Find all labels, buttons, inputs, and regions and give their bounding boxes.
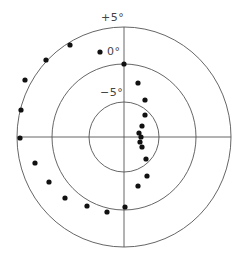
data-point	[138, 134, 143, 139]
data-point	[43, 57, 48, 62]
data-point	[143, 156, 148, 161]
data-point	[137, 139, 142, 144]
data-point	[142, 97, 147, 102]
data-point	[104, 209, 109, 214]
data-point	[122, 204, 127, 209]
data-point	[142, 112, 147, 117]
data-point	[62, 195, 67, 200]
data-point	[144, 173, 149, 178]
polar-diagram	[0, 0, 241, 260]
data-point	[121, 61, 126, 66]
data-point	[46, 179, 51, 184]
data-point	[135, 80, 140, 85]
data-point	[97, 49, 102, 54]
data-point	[32, 160, 37, 165]
axes	[17, 27, 231, 247]
data-points	[17, 42, 149, 214]
data-point	[135, 183, 140, 188]
data-point	[67, 42, 72, 47]
data-point	[18, 107, 23, 112]
data-point	[84, 203, 89, 208]
data-point	[139, 144, 144, 149]
label-zero: 0°	[107, 46, 121, 57]
label-minus-5: −5°	[100, 87, 123, 98]
data-point	[17, 135, 22, 140]
data-point	[22, 77, 27, 82]
data-point	[139, 123, 144, 128]
label-plus-5: +5°	[101, 12, 124, 23]
